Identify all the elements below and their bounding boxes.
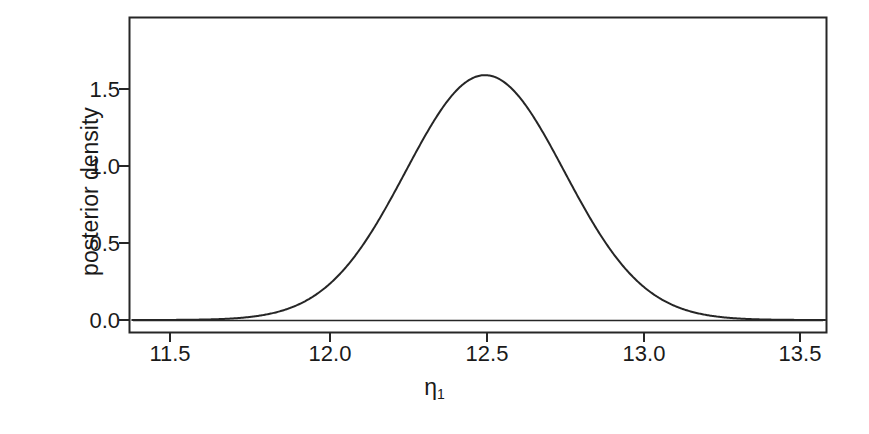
figure-canvas: posterior density 1.5 1.0 0.5 0.0 11.5 1…: [0, 0, 869, 434]
plot-frame: [130, 18, 827, 333]
plot-area: [0, 0, 869, 434]
y-tick-marks: [119, 89, 129, 320]
posterior-density-curve: [132, 75, 825, 320]
